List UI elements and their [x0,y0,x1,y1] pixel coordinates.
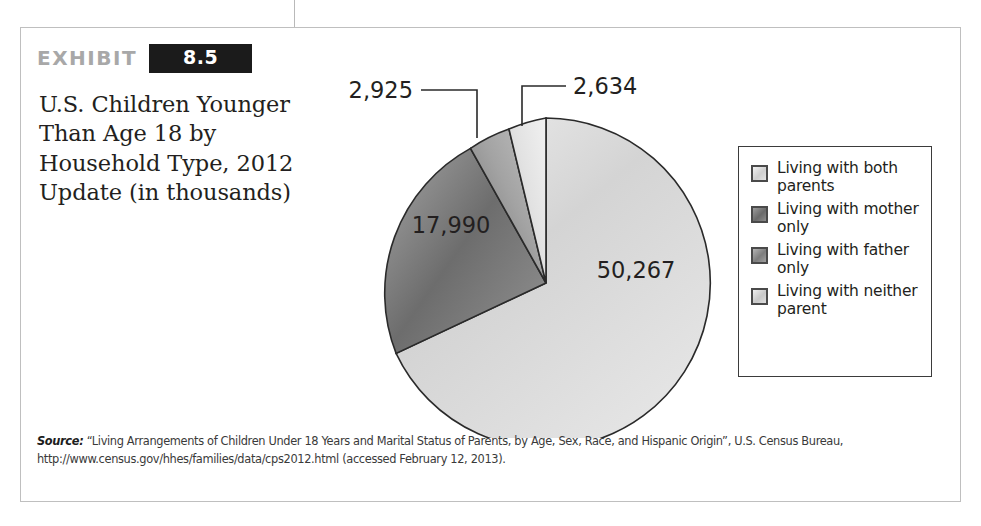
pie-chart: 50,267 17,990 2,925 2,634 [301,38,771,438]
pie-label-mother-only: 17,990 [412,212,491,238]
legend-item-mother-only[interactable]: Living with mother only [751,201,921,237]
legend-item-neither-parent[interactable]: Living with neither parent [751,283,921,319]
legend-swatch-icon [751,206,768,223]
pie-chart-svg: 50,267 17,990 2,925 2,634 [301,38,771,438]
source-text: “Living Arrangements of Children Under 1… [37,434,843,466]
leader-line-father-only [421,90,477,138]
pie-label-neither-parent: 2,634 [573,73,637,99]
exhibit-label: EXHIBIT [37,46,137,70]
chart-legend: Living with both parents Living with mot… [738,146,932,377]
legend-item-father-only[interactable]: Living with father only [751,242,921,278]
exhibit-number-badge: 8.5 [149,44,252,73]
exhibit-header: EXHIBIT 8.5 [37,44,252,73]
pie-label-father-only: 2,925 [349,77,413,103]
exhibit-figure-frame: EXHIBIT 8.5 U.S. Children Younger Than A… [20,27,961,502]
legend-item-label: Living with mother only [777,201,921,237]
legend-item-label: Living with father only [777,242,921,278]
legend-swatch-icon [751,247,768,264]
legend-item-label: Living with neither parent [777,283,921,319]
source-label: Source: [37,434,83,448]
page-rule-line [294,0,295,28]
legend-item-both-parents[interactable]: Living with both parents [751,160,921,196]
legend-item-label: Living with both parents [777,160,921,196]
pie-label-both-parents: 50,267 [597,257,676,283]
page-title: U.S. Children Younger Than Age 18 by Hou… [39,90,294,207]
legend-swatch-icon [751,288,768,305]
source-note: Source: “Living Arrangements of Children… [37,432,942,469]
legend-swatch-icon [751,165,768,182]
